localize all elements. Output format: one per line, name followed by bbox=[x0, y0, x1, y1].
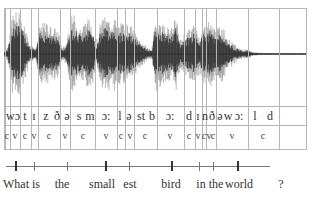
timeline-tick bbox=[34, 162, 35, 171]
speech-waveform bbox=[4, 8, 307, 100]
segment-boundary-line bbox=[31, 8, 32, 150]
segment-boundary-line bbox=[248, 8, 249, 150]
phoneme-label: l bbox=[118, 109, 121, 123]
cv-label: v bbox=[63, 130, 68, 142]
phoneme-divider bbox=[4, 125, 307, 126]
cv-label: c bbox=[143, 130, 147, 142]
cv-label: c bbox=[119, 130, 123, 142]
word-label: small bbox=[89, 177, 115, 191]
segment-boundary-line bbox=[70, 8, 71, 150]
phoneme-label: w bbox=[224, 109, 233, 123]
segment-boundary-line bbox=[5, 8, 6, 150]
cv-label: c bbox=[5, 130, 9, 142]
phoneme-label: l bbox=[253, 109, 256, 123]
cv-label: c bbox=[23, 130, 27, 142]
segment-boundary-line bbox=[38, 8, 39, 150]
segment-boundary-line bbox=[60, 8, 61, 150]
cv-label: v bbox=[128, 130, 133, 142]
phoneme-label: ð bbox=[209, 109, 215, 123]
phoneme-label: ə bbox=[126, 109, 131, 123]
segment-boundary-line bbox=[195, 8, 196, 150]
timeline-tick bbox=[129, 162, 130, 171]
segment-boundary-line bbox=[184, 8, 185, 150]
segment-boundary-line bbox=[95, 8, 96, 150]
phoneme-label: z bbox=[43, 109, 48, 123]
phoneme-label: n bbox=[202, 109, 208, 123]
cv-label: c bbox=[47, 130, 51, 142]
segment-boundary-line bbox=[157, 8, 158, 150]
segment-boundary-line bbox=[20, 8, 21, 150]
word-label: world bbox=[225, 177, 253, 191]
cv-label: v bbox=[230, 130, 235, 142]
phoneme-label: ð bbox=[54, 109, 60, 123]
segment-boundary-line bbox=[134, 8, 135, 150]
phoneme-label: t bbox=[23, 109, 26, 123]
cv-label: c bbox=[211, 130, 215, 142]
cv-label: c bbox=[81, 130, 85, 142]
phoneme-label: b bbox=[149, 109, 155, 123]
word-label: est bbox=[123, 177, 136, 191]
cv-label: c bbox=[187, 130, 191, 142]
word-label: ? bbox=[278, 177, 283, 191]
phoneme-label: s bbox=[77, 109, 82, 123]
word-label: bird bbox=[161, 177, 180, 191]
word-label: the bbox=[209, 177, 224, 191]
timeline-tick bbox=[237, 161, 239, 171]
word-label: in bbox=[196, 177, 205, 191]
phoneme-label: d bbox=[267, 109, 273, 123]
timeline-tick bbox=[171, 161, 173, 171]
cv-label: v bbox=[104, 130, 109, 142]
phoneme-label: ɪ bbox=[32, 109, 35, 123]
word-timeline-axis bbox=[6, 166, 270, 167]
phoneme-label: ə bbox=[64, 109, 69, 123]
waveform-divider bbox=[4, 106, 307, 107]
word-label: is bbox=[32, 177, 40, 191]
segment-boundary-line bbox=[117, 8, 118, 150]
word-label: What bbox=[3, 177, 29, 191]
segment-boundary-line bbox=[202, 8, 203, 150]
timeline-tick bbox=[105, 161, 107, 171]
cv-label: c bbox=[261, 130, 265, 142]
segment-boundary-line bbox=[279, 8, 280, 150]
timeline-tick bbox=[67, 162, 68, 171]
phoneme-label: ɔ: bbox=[102, 109, 111, 123]
cv-label: v bbox=[196, 130, 201, 142]
segment-boundary-line bbox=[306, 8, 307, 150]
segment-boundary-line bbox=[10, 8, 11, 150]
segment-boundary-line bbox=[125, 8, 126, 150]
word-label: the bbox=[55, 177, 70, 191]
timeline-tick bbox=[199, 162, 200, 171]
timeline-tick bbox=[15, 161, 17, 171]
cv-label: v bbox=[32, 130, 37, 142]
cv-label: v bbox=[168, 130, 173, 142]
phoneme-label: m bbox=[85, 109, 94, 123]
phoneme-label: wɔ bbox=[6, 109, 20, 123]
phoneme-label: ɔ: bbox=[166, 109, 175, 123]
cv-label: v bbox=[13, 130, 18, 142]
segment-boundary-line bbox=[206, 8, 207, 150]
phoneme-label: ɪ bbox=[196, 109, 199, 123]
timeline-tick bbox=[213, 162, 214, 171]
phoneme-label: ə bbox=[217, 109, 222, 123]
segment-boundary-line bbox=[216, 8, 217, 150]
phoneme-label: d bbox=[186, 109, 192, 123]
phoneme-label: st bbox=[137, 109, 145, 123]
phoneme-label: ɔ: bbox=[235, 109, 244, 123]
